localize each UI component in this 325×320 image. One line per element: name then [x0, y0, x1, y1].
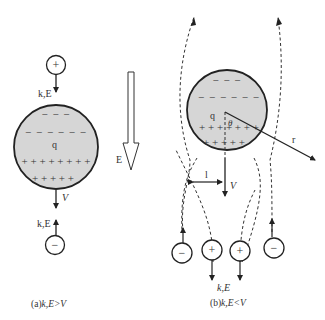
angle-label: θ: [228, 118, 233, 128]
negative-charges-row: − − − − − −: [198, 91, 260, 103]
top-particle-label: k,E: [38, 88, 52, 99]
svg-text:+: +: [53, 58, 60, 72]
negative-charges-row: − − −: [212, 74, 241, 86]
trajectory-arrow-icon: [276, 17, 282, 26]
velocity-label: V: [230, 180, 238, 191]
positive-particle-icon: +: [230, 241, 250, 261]
particle-label: k,E: [217, 282, 230, 293]
positive-particle-icon: +: [202, 240, 222, 260]
positive-charges-row: + + + + +: [203, 136, 245, 148]
positive-particle-icon: +: [47, 56, 66, 75]
positive-charges-row: + + + + +: [32, 172, 74, 184]
negative-charges-row: − − − − − −: [25, 126, 87, 138]
impact-parameter-label: l: [205, 169, 208, 180]
panel-a: + k,E − − − − − − − − − q + + + + + + + …: [14, 56, 139, 311]
svg-text:−: −: [179, 246, 186, 260]
svg-text:+: +: [237, 244, 244, 258]
negative-particle-icon: −: [46, 236, 65, 255]
svg-text:−: −: [271, 241, 278, 255]
diagram-canvas: + k,E − − − − − − − − − q + + + + + + + …: [0, 0, 325, 320]
electric-field-arrow-icon: [123, 72, 139, 170]
panel-b: − − − − − − − − − q + + + + + + + + + + …: [172, 17, 315, 309]
caption-a: (a)k,E>V: [31, 299, 67, 310]
negative-charges-row: − − −: [41, 108, 70, 120]
negative-particle-icon: −: [264, 238, 284, 258]
radius-label: r: [292, 134, 296, 145]
sphere-charge-label: q: [52, 139, 57, 150]
svg-text:+: +: [209, 243, 216, 257]
velocity-label: V: [62, 192, 70, 203]
caption-b: (b)k,E<V: [210, 298, 247, 309]
field-label: E: [116, 154, 122, 165]
svg-text:−: −: [52, 238, 59, 252]
sphere-charge-label: q: [210, 110, 215, 121]
positive-charges-row: + + + + + + + +: [22, 155, 91, 167]
bottom-particle-label: k,E: [37, 218, 51, 229]
negative-particle-icon: −: [172, 243, 192, 263]
